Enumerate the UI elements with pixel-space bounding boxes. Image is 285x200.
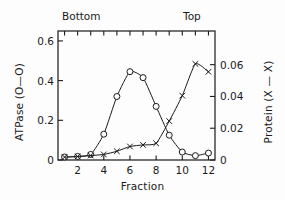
y-tick-label-left: 0 [47,154,54,166]
y-tick-label-right: 0.04 [220,90,243,102]
x-tick-label: 12 [202,164,215,176]
axis-ticks [58,31,215,160]
data-series [62,61,212,160]
y-tick-label-left: 0.4 [37,75,54,87]
y-tick-label-right: 0.02 [220,122,243,134]
series-protein [62,61,212,160]
y-tick-label-right: 0.06 [220,59,243,71]
x-tick-label: 4 [100,164,107,176]
y-tick-label-left: 0.2 [37,114,54,126]
axes-frame [58,31,215,160]
series-atpase [62,69,212,160]
y-tick-label-left: 0.6 [37,35,54,47]
y-tick-label-right: 0 [220,154,227,166]
x-tick-label: 6 [127,164,134,176]
x-tick-label: 8 [153,164,160,176]
figure-container: Bottom Top ATPase (O—O) Protein (X — X) … [0,0,285,200]
x-tick-label: 2 [74,164,81,176]
x-tick-label: 10 [176,164,189,176]
